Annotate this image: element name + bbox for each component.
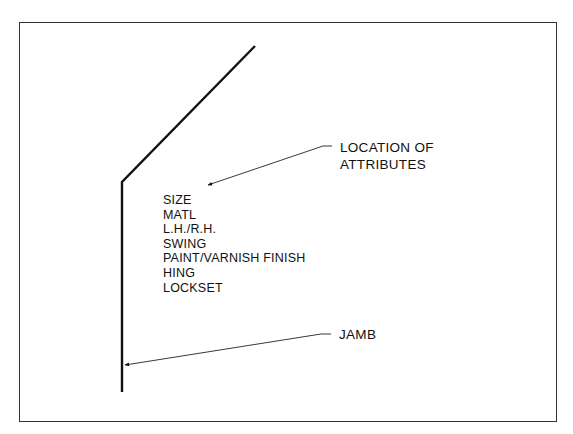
- location-of-attributes-label-line2: ATTRIBUTES: [340, 156, 426, 173]
- location-of-attributes-label-line1: LOCATION OF: [340, 139, 434, 156]
- jamb-label: JAMB: [339, 326, 376, 343]
- attribute-lockset: LOCKSET: [163, 281, 305, 296]
- jamb-leader-arrow: [125, 334, 331, 365]
- attribute-hinge: HING: [163, 266, 305, 281]
- attribute-material: MATL: [163, 208, 305, 223]
- attribute-finish: PAINT/VARNISH FINISH: [163, 251, 305, 266]
- attribute-handing: L.H./R.H.: [163, 222, 305, 237]
- attribute-swing: SWING: [163, 237, 305, 252]
- attribute-list: SIZE MATL L.H./R.H. SWING PAINT/VARNISH …: [163, 193, 305, 295]
- attributes-leader-arrow: [208, 146, 332, 185]
- diagram-canvas: LOCATION OF ATTRIBUTES SIZE MATL L.H./R.…: [0, 0, 573, 434]
- attribute-size: SIZE: [163, 193, 305, 208]
